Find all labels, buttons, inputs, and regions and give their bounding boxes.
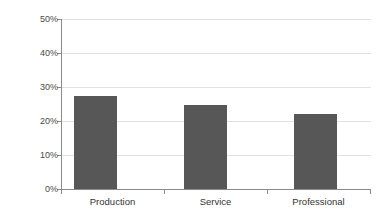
y-axis-label-20: 20%	[8, 117, 58, 126]
x-tick-mark-4	[370, 190, 371, 194]
x-axis-line	[61, 189, 371, 190]
x-tick-mark-1	[61, 190, 62, 194]
bar-service	[184, 105, 227, 189]
y-axis-label-0: 0%	[8, 185, 58, 194]
gridline-50	[61, 19, 371, 20]
y-axis-label-10: 10%	[8, 151, 58, 160]
y-axis-label-50: 50%	[8, 15, 58, 24]
bar-production	[74, 96, 117, 190]
x-tick-mark-3	[267, 190, 268, 194]
y-axis-label-40: 40%	[8, 49, 58, 58]
x-axis-label-service: Service	[164, 196, 267, 208]
y-axis-line	[61, 19, 62, 190]
x-axis-label-production: Production	[61, 196, 164, 208]
x-tick-mark-2	[164, 190, 165, 194]
y-axis-label-30: 30%	[8, 83, 58, 92]
x-axis-label-professional: Professional	[267, 196, 370, 208]
bar-chart: 50% 40% 30% 20% 10% 0% Production Servic…	[0, 0, 383, 219]
bar-professional	[294, 114, 337, 189]
gridline-40	[61, 53, 371, 54]
gridline-30	[61, 87, 371, 88]
